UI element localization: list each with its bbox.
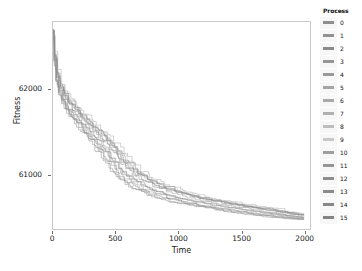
x-tick-label: 0 [32,234,72,243]
legend-key [320,69,337,81]
legend-swatch [323,203,334,206]
legend-label: 8 [340,124,344,130]
x-tick-mark [178,231,179,234]
legend-swatch [323,73,334,76]
legend-item-9[interactable]: 9 [320,133,348,146]
legend-title: Process [323,7,349,14]
legend-key [320,30,337,42]
legend-item-3[interactable]: 3 [320,55,348,68]
legend-label: 11 [340,163,348,169]
legend-item-6[interactable]: 6 [320,94,348,107]
legend-swatch [323,151,334,154]
legend-item-0[interactable]: 0 [320,16,348,29]
series-line [53,30,304,219]
x-tick-mark [242,231,243,234]
legend-key [320,17,337,29]
legend-item-15[interactable]: 15 [320,211,348,224]
legend-key [320,43,337,55]
legend-label: 3 [340,59,344,65]
legend-key [320,121,337,133]
legend-item-7[interactable]: 7 [320,107,348,120]
legend-key [320,186,337,198]
y-tick-label: 62000 [6,84,42,93]
legend-key [320,95,337,107]
y-tick-mark [48,89,51,90]
legend-item-8[interactable]: 8 [320,120,348,133]
legend-swatch [323,125,334,128]
series-line [53,30,304,218]
legend-key [320,199,337,211]
plot-panel [52,21,311,230]
legend-item-12[interactable]: 12 [320,172,348,185]
chart-figure: 6100062000 Fitness 0500100015002000 Time… [0,0,362,271]
legend-label: 9 [340,137,344,143]
y-tick-label: 61000 [6,170,42,179]
legend-swatch [323,86,334,89]
legend-label: 5 [340,85,344,91]
series-lines [53,22,310,229]
legend-item-14[interactable]: 14 [320,198,348,211]
legend-label: 1 [340,33,344,39]
x-tick-label: 1500 [222,234,262,243]
legend-label: 10 [340,150,348,156]
legend-swatch [323,216,334,219]
legend-label: 15 [340,215,348,221]
legend-label: 6 [340,98,344,104]
series-line [53,31,304,214]
series-line [53,31,304,217]
legend-key [320,212,337,224]
x-tick-label: 2000 [285,234,325,243]
legend-swatch [323,112,334,115]
legend-item-1[interactable]: 1 [320,29,348,42]
legend-swatch [323,47,334,50]
x-tick-label: 500 [95,234,135,243]
series-line [53,30,304,218]
legend-swatch [323,34,334,37]
legend-swatch [323,190,334,193]
legend-item-11[interactable]: 11 [320,159,348,172]
legend-item-2[interactable]: 2 [320,42,348,55]
legend-item-13[interactable]: 13 [320,185,348,198]
x-tick-mark [305,231,306,234]
legend-key [320,173,337,185]
legend-swatch [323,99,334,102]
series-line [53,30,304,218]
legend-swatch [323,21,334,24]
legend-swatch [323,177,334,180]
y-tick-mark [48,175,51,176]
legend-item-10[interactable]: 10 [320,146,348,159]
legend-key [320,108,337,120]
legend-label: 0 [340,20,344,26]
x-tick-mark [115,231,116,234]
legend-label: 2 [340,46,344,52]
x-axis-label: Time [52,246,311,255]
legend-label: 4 [340,72,344,78]
series-line [53,38,304,215]
legend-label: 14 [340,202,348,208]
legend-swatch [323,164,334,167]
legend-key [320,82,337,94]
legend-label: 7 [340,111,344,117]
legend-swatch [323,138,334,141]
legend-item-5[interactable]: 5 [320,81,348,94]
legend-items: 0123456789101112131415 [320,16,348,224]
legend-key [320,134,337,146]
legend-key [320,56,337,68]
legend-label: 12 [340,176,348,182]
legend-item-4[interactable]: 4 [320,68,348,81]
legend: Process 0123456789101112131415 [320,7,360,224]
legend-label: 13 [340,189,348,195]
x-tick-label: 1000 [158,234,198,243]
series-line [53,34,304,215]
series-line [53,38,304,215]
legend-key [320,147,337,159]
legend-key [320,160,337,172]
legend-swatch [323,60,334,63]
y-axis-label: Fitness [13,81,22,141]
x-tick-mark [52,231,53,234]
